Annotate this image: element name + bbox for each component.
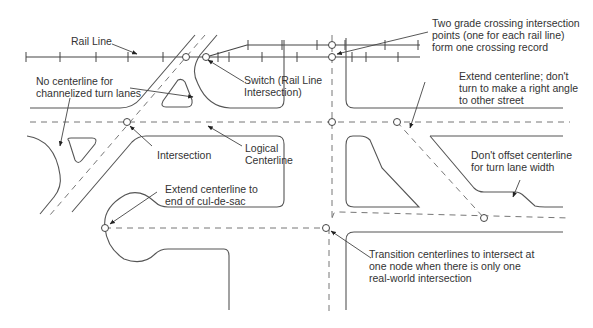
dont-offset-label: Don't offset centerline for turn lane wi… bbox=[471, 149, 572, 173]
switch-label: Switch (Rail Line Intersection) bbox=[244, 74, 322, 98]
grade-crossing-node-lower bbox=[329, 54, 336, 61]
cul-de-sac-arrow bbox=[110, 192, 157, 224]
intersection-label: Intersection bbox=[157, 149, 211, 161]
grade-crossing-arrow bbox=[337, 32, 428, 54]
rail-road-crossing-node bbox=[183, 54, 190, 61]
switch-arrow bbox=[208, 60, 244, 82]
rail-line-arrow bbox=[112, 44, 137, 54]
lower-left-block-edge bbox=[224, 249, 229, 310]
middle-trapezoid-block bbox=[346, 136, 419, 207]
logical-centerline-label: Logical Centerline bbox=[245, 142, 293, 166]
transition-arrow bbox=[331, 231, 371, 258]
switch-node bbox=[203, 54, 210, 61]
cul-de-sac-end-node bbox=[102, 225, 109, 232]
dont-offset-arrow bbox=[513, 180, 520, 197]
rail-line-label: Rail Line bbox=[71, 35, 112, 47]
intersection-node bbox=[124, 119, 131, 126]
channelized-island-lower bbox=[68, 138, 96, 163]
lower-diagonal-node bbox=[481, 215, 488, 222]
main-street-vertical-node bbox=[329, 119, 336, 126]
no-centerline-label: No centerline for channelized turn lanes bbox=[36, 75, 141, 99]
branch-rail-line bbox=[206, 45, 420, 57]
grade-crossing-node-upper bbox=[329, 42, 336, 49]
diagonal-street-node bbox=[394, 119, 401, 126]
extend-centerline-label: Extend centerline; don't turn to make a … bbox=[459, 70, 578, 106]
left-curve-edge bbox=[27, 136, 60, 214]
cul-de-sac-label: Extend centerline to end of cul-de-sac bbox=[165, 183, 258, 207]
grade-crossing-label: Two grade crossing intersection points (… bbox=[432, 17, 580, 53]
transition-centerline bbox=[332, 212, 570, 218]
extend-centerline-arrow bbox=[410, 82, 425, 128]
transition-label: Transition centerlines to intersect at o… bbox=[369, 248, 534, 284]
transition-node bbox=[323, 225, 330, 232]
